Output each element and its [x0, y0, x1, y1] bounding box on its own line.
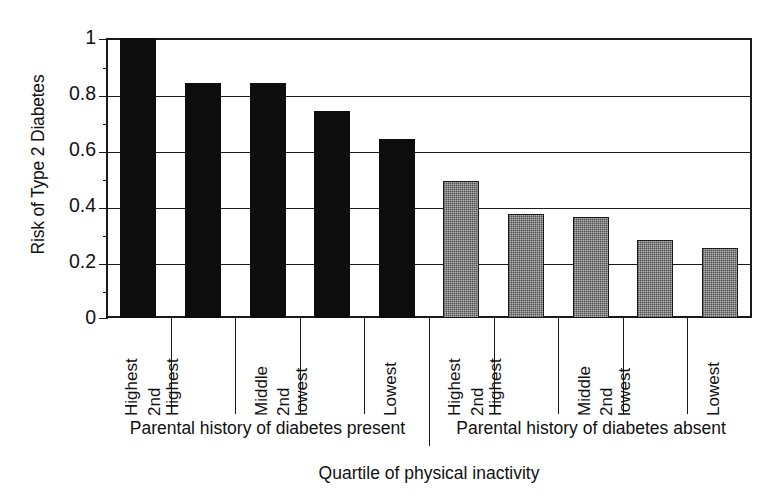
y-axis-label-0.8: 0.8: [36, 84, 96, 104]
gridline-0.2: [108, 264, 750, 265]
y-tick-minor-0.3: [103, 236, 108, 237]
group-label-present: Parental history of diabetes present: [106, 418, 429, 439]
category-label-line1: Highest: [446, 316, 464, 416]
group-label-present-line1: Parental history of diabetes: [130, 418, 342, 438]
gridline-0.4: [108, 208, 750, 209]
group-label-present-line2: present: [347, 418, 405, 438]
category-label-3: 2ndlowest: [275, 316, 315, 416]
y-tick-0.2: [99, 264, 108, 265]
y-tick-0.6: [99, 152, 108, 153]
y-tick-1: [99, 39, 108, 40]
category-label-0: Highest: [123, 316, 147, 416]
category-label-line1: Highest: [123, 316, 141, 416]
y-tick-minor-0.7: [103, 124, 108, 125]
category-divider: [364, 318, 365, 414]
risk-of-type-2-diabetes-bar-chart: Risk of Type 2 Diabetes 1 0.8 0.6 0.4 0.…: [0, 0, 778, 502]
y-tick-0.8: [99, 96, 108, 97]
group-label-absent-line1: Parental history of diabetes: [456, 418, 668, 438]
category-label-line2: Highest: [486, 316, 504, 416]
gridline-0.8: [108, 96, 750, 97]
y-axis-label-0.6: 0.6: [36, 140, 96, 160]
category-label-line2: lowest: [616, 316, 634, 416]
y-tick-0.4: [99, 208, 108, 209]
gridline-0.6: [108, 152, 750, 153]
category-label-2: Middle: [253, 316, 277, 416]
category-divider: [558, 318, 559, 414]
y-tick-minor-0.9: [103, 68, 108, 69]
plot-area: [106, 38, 752, 318]
category-label-line1: 2nd: [469, 316, 487, 416]
category-label-line1: 2nd: [598, 316, 616, 416]
category-label-4: Lowest: [382, 316, 406, 416]
category-divider: [687, 318, 688, 414]
y-axis-labels: 1 0.8 0.6 0.4 0.2 0: [30, 38, 96, 318]
group-label-absent-line2: absent: [673, 418, 726, 438]
x-axis-title: Quartile of physical inactivity: [106, 463, 752, 484]
category-label-6: 2ndHighest: [469, 316, 509, 416]
category-label-5: Highest: [446, 316, 470, 416]
category-label-line1: 2nd: [275, 316, 293, 416]
category-label-line1: 2nd: [146, 316, 164, 416]
y-axis-label-0.2: 0.2: [36, 252, 96, 272]
category-label-9: Lowest: [705, 316, 729, 416]
category-label-line1: Middle: [253, 316, 271, 416]
category-label-1: 2ndHighest: [146, 316, 186, 416]
category-label-7: Middle: [576, 316, 600, 416]
category-label-line1: Middle: [576, 316, 594, 416]
group-label-absent: Parental history of diabetes absent: [430, 418, 752, 439]
y-tick-minor-0.5: [103, 180, 108, 181]
y-axis-label-1: 1: [36, 28, 96, 48]
category-label-8: 2ndlowest: [598, 316, 638, 416]
category-label-line2: Highest: [163, 316, 181, 416]
category-divider: [235, 318, 236, 414]
y-axis-label-0.4: 0.4: [36, 196, 96, 216]
y-axis-label-0: 0: [36, 308, 96, 328]
category-label-line1: Lowest: [382, 316, 400, 416]
y-tick-minor-0.1: [103, 292, 108, 293]
category-label-line2: lowest: [293, 316, 311, 416]
category-label-line1: Lowest: [705, 316, 723, 416]
